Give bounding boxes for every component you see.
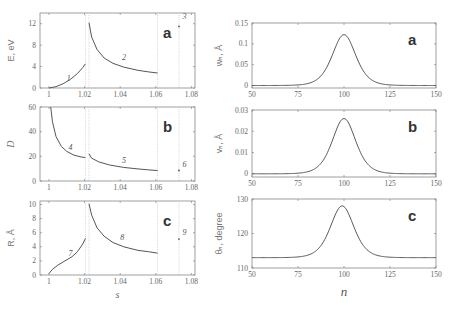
y-tick-label: 6 bbox=[32, 228, 36, 237]
y-axis-label: vₙ, Å bbox=[214, 134, 224, 154]
y-tick-label: 0 bbox=[32, 84, 36, 93]
panel-label: c bbox=[163, 212, 171, 229]
y-tick-label: 0.1 bbox=[239, 39, 249, 48]
panel-right-b: 507510012515000.010.020.03bvₙ, Å bbox=[214, 106, 442, 189]
y-tick-label: 0 bbox=[244, 169, 248, 178]
x-tick-label: 1.02 bbox=[78, 90, 91, 99]
x-tick-label: 1.02 bbox=[78, 183, 91, 192]
y-tick-label: 110 bbox=[237, 264, 248, 273]
y-axis-label: wₙ, Å bbox=[214, 45, 224, 68]
curve-label: 8 bbox=[120, 233, 124, 242]
curve-7 bbox=[49, 238, 86, 273]
x-tick-label: 1.04 bbox=[114, 90, 127, 99]
x-tick-label: 1.08 bbox=[185, 277, 198, 286]
x-tick-label: 1.06 bbox=[149, 277, 162, 286]
x-tick-label: 125 bbox=[384, 90, 396, 99]
panel-left-c: 11.021.041.061.080246810789cR, Ås bbox=[6, 200, 198, 300]
data-point-9 bbox=[178, 238, 180, 240]
x-axis-label: n bbox=[341, 284, 348, 299]
x-tick-label: 1.04 bbox=[114, 183, 127, 192]
panel-label: b bbox=[408, 118, 417, 135]
plot-area bbox=[40, 201, 195, 275]
y-tick-label: 40 bbox=[29, 127, 37, 136]
y-axis-label: E, eV bbox=[6, 39, 16, 61]
y-axis-label: R, Å bbox=[6, 229, 16, 247]
x-tick-label: 75 bbox=[294, 270, 302, 279]
y-tick-label: 12 bbox=[29, 19, 37, 28]
y-tick-label: 2 bbox=[32, 256, 36, 265]
y-tick-label: 0 bbox=[32, 177, 36, 186]
curve-label: 2 bbox=[122, 53, 126, 62]
x-tick-label: 100 bbox=[338, 90, 350, 99]
panel-left-a: 11.021.041.061.0804812123aE, eV bbox=[6, 12, 198, 99]
panel-label: c bbox=[408, 207, 416, 224]
curve-label: 4 bbox=[69, 143, 73, 152]
y-axis-label: D bbox=[5, 140, 16, 149]
curve-label: 5 bbox=[122, 156, 126, 165]
curve-label: 9 bbox=[183, 228, 187, 237]
x-tick-label: 1 bbox=[47, 183, 51, 192]
y-tick-label: 0 bbox=[32, 271, 36, 280]
x-tick-label: 125 bbox=[384, 270, 396, 279]
x-tick-label: 50 bbox=[248, 90, 256, 99]
plot-area bbox=[40, 13, 195, 88]
x-tick-label: 1.08 bbox=[185, 183, 198, 192]
curve-8 bbox=[89, 204, 158, 253]
y-tick-label: 20 bbox=[29, 152, 37, 161]
y-tick-label: 8 bbox=[32, 41, 36, 50]
y-tick-label: 0 bbox=[244, 81, 248, 90]
x-tick-label: 75 bbox=[294, 90, 302, 99]
panel-right-a: 507510012515000.050.10.15awₙ, Å bbox=[214, 19, 442, 100]
x-axis-label: s bbox=[116, 289, 120, 300]
curve-label: 6 bbox=[183, 160, 187, 169]
y-tick-label: 0.15 bbox=[235, 19, 248, 28]
y-axis-label: θₙ, degree bbox=[214, 212, 224, 254]
x-tick-label: 100 bbox=[338, 179, 350, 188]
x-tick-label: 125 bbox=[384, 179, 396, 188]
y-tick-label: 120 bbox=[237, 229, 249, 238]
x-tick-label: 1.06 bbox=[149, 183, 162, 192]
y-tick-label: 60 bbox=[29, 103, 37, 112]
y-tick-label: 4 bbox=[32, 242, 36, 251]
y-tick-label: 130 bbox=[237, 195, 249, 204]
x-tick-label: 1 bbox=[47, 90, 51, 99]
y-tick-label: 0.01 bbox=[235, 148, 248, 157]
y-tick-label: 4 bbox=[32, 62, 36, 71]
x-tick-label: 150 bbox=[430, 90, 442, 99]
x-tick-label: 50 bbox=[248, 179, 256, 188]
data-point-6 bbox=[178, 170, 180, 172]
x-tick-label: 1.02 bbox=[78, 277, 91, 286]
x-tick-label: 75 bbox=[294, 179, 302, 188]
x-tick-label: 150 bbox=[430, 179, 442, 188]
panel-label: a bbox=[408, 31, 417, 48]
curve-2 bbox=[89, 23, 158, 73]
x-tick-label: 150 bbox=[430, 270, 442, 279]
panel-label: b bbox=[163, 118, 172, 135]
panel-left-b: 11.021.041.061.080204060456bD bbox=[5, 103, 198, 193]
data-point-3 bbox=[178, 25, 180, 27]
y-tick-label: 8 bbox=[32, 214, 36, 223]
x-tick-label: 1.06 bbox=[149, 90, 162, 99]
x-tick-label: 1 bbox=[47, 277, 51, 286]
x-tick-label: 100 bbox=[338, 270, 350, 279]
y-tick-label: 0.02 bbox=[235, 127, 248, 136]
curve-label: 3 bbox=[182, 12, 187, 21]
panel-label: a bbox=[163, 24, 172, 41]
x-tick-label: 1.04 bbox=[114, 277, 127, 286]
x-tick-label: 1.08 bbox=[185, 90, 198, 99]
figure: 11.021.041.061.0804812123aE, eV11.021.04… bbox=[0, 0, 452, 312]
x-tick-label: 50 bbox=[248, 270, 256, 279]
curve-label: 1 bbox=[67, 74, 71, 83]
panel-right-c: 5075100125150110120130cθₙ, degreen bbox=[214, 195, 442, 300]
y-tick-label: 0.03 bbox=[235, 106, 248, 115]
y-tick-label: 10 bbox=[29, 200, 37, 209]
y-tick-label: 0.05 bbox=[235, 60, 248, 69]
